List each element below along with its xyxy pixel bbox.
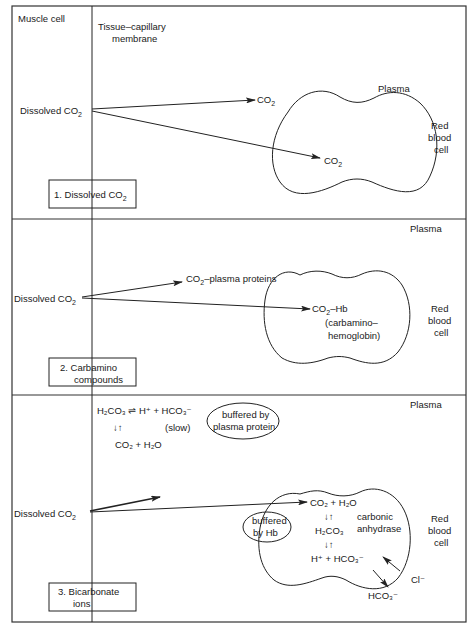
rbc-equation-line2: H₂CO₃ (315, 525, 344, 536)
muscle-cell-label: Muscle cell (18, 13, 65, 24)
rbc-label-line2: blood (428, 525, 451, 536)
co2-plasma-proteins-label: CO2–plasma proteins (186, 273, 277, 286)
source-dissolved-co2: Dissolved CO2 (14, 293, 76, 306)
membrane-label-line1: Tissue–capillary (98, 21, 166, 32)
enzyme-label-line2: anhydrase (357, 523, 401, 534)
arrow-to-rbc (90, 502, 307, 512)
carbamino-note-line1: (carbamino– (325, 317, 379, 328)
panel-2-title-line1: 2. Carbamino (60, 362, 117, 373)
arrow-bicarbonate-out (373, 570, 388, 587)
chloride-label: Cl⁻ (411, 574, 425, 585)
panel-1-dissolved-co2: Muscle cell Tissue–capillary membrane Pl… (18, 13, 451, 208)
bicarbonate-out-label: HCO₃⁻ (368, 590, 398, 601)
plasma-buffer-line2: plasma protein (213, 421, 275, 432)
red-blood-cell-shape (272, 91, 436, 193)
arrow-to-plasma-co2 (92, 100, 255, 109)
panel-3-title-line1: 3. Bicarbonate (58, 586, 119, 597)
rbc-equation-arrows2: ↓↑ (324, 539, 334, 550)
panel-3-title-line2: ions (73, 598, 91, 609)
plasma-co2-label: CO2 (257, 94, 275, 107)
rbc-label-line2: blood (428, 132, 451, 143)
rbc-label-line1: Red (431, 513, 448, 524)
arrow-to-carbamino-hemoglobin (82, 298, 310, 309)
plasma-buffer-line1: buffered by (222, 409, 270, 420)
rbc-label-line1: Red (431, 303, 448, 314)
rbc-label-line2: blood (428, 315, 451, 326)
arrow-chloride-in (383, 557, 400, 571)
rbc-equation-line3: H⁺ + HCO₃⁻ (311, 553, 364, 564)
plasma-equation-line1: H₂CO₃ ⇌ H⁺ + HCO₃⁻ (97, 405, 192, 416)
plasma-label: Plasma (410, 399, 442, 410)
co2-hb-label: CO2–Hb (312, 303, 348, 316)
membrane-label-line2: membrane (112, 33, 157, 44)
hb-buffer-line2: by Hb (253, 527, 278, 538)
rbc-equation-line1: CO₂ + H₂O (310, 497, 357, 508)
plasma-equation-arrows: ↓↑ (113, 422, 123, 433)
source-dissolved-co2: Dissolved CO2 (14, 508, 76, 521)
rbc-label-line3: cell (434, 327, 448, 338)
plasma-label: Plasma (410, 223, 442, 234)
plasma-equation-line3: CO₂ + H₂O (115, 439, 162, 450)
plasma-equation-rate: (slow) (165, 422, 190, 433)
arrow-to-rbc-co2 (92, 111, 320, 158)
arrow-to-plasma-proteins (82, 282, 182, 297)
panel-1-title: 1. Dissolved CO2 (54, 189, 127, 202)
rbc-label-line3: cell (434, 144, 448, 155)
carbamino-note-line2: hemoglobin) (328, 330, 380, 341)
panel-3-bicarbonate-ions: Plasma H₂CO₃ ⇌ H⁺ + HCO₃⁻ ↓↑ (slow) CO₂ … (14, 399, 451, 611)
rbc-co2-label: CO2 (324, 155, 342, 168)
panel-2-carbamino-compounds: Plasma Red blood cell Dissolved CO2 CO2–… (14, 223, 451, 386)
rbc-label-line1: Red (431, 120, 448, 131)
source-dissolved-co2: Dissolved CO2 (20, 105, 82, 118)
rbc-label-line3: cell (434, 537, 448, 548)
rbc-equation-arrows1: ↓↑ (324, 511, 334, 522)
panel-2-title-line2: compounds (74, 374, 123, 385)
enzyme-label-line1: carbonic (357, 511, 393, 522)
hb-buffer-line1: buffered (252, 515, 287, 526)
co2-transport-diagram: Muscle cell Tissue–capillary membrane Pl… (0, 0, 474, 630)
